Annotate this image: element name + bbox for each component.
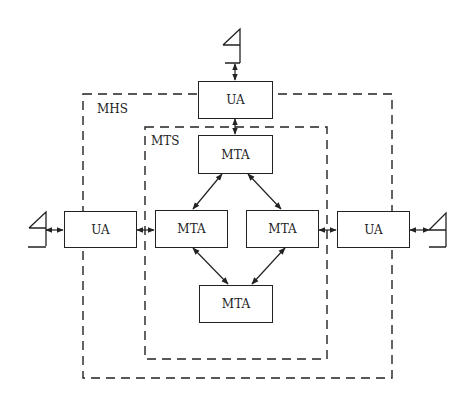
mta-right-node: MTA xyxy=(246,210,319,248)
mta-top-node: MTA xyxy=(198,135,273,174)
mts-label: MTS xyxy=(151,134,180,148)
mhs-label: MHS xyxy=(97,102,128,116)
ua-left-node: UA xyxy=(64,211,137,248)
mta-left-node: MTA xyxy=(155,210,228,248)
ua-right-node: UA xyxy=(337,211,410,248)
user-terminal-left-icon xyxy=(28,212,46,247)
ua-top-node: UA xyxy=(198,81,273,119)
mta-bottom-node: MTA xyxy=(199,285,273,323)
user-terminal-right-icon xyxy=(429,213,446,247)
diagram-canvas xyxy=(0,0,472,399)
user-terminal-top-icon xyxy=(223,29,240,63)
